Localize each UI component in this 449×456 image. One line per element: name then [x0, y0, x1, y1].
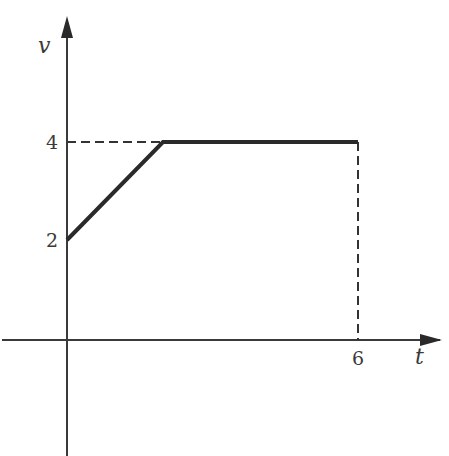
y-axis-label: v	[38, 33, 51, 58]
tick-y-2: 2	[46, 229, 58, 251]
velocity-time-chart: v t 4 2 6	[0, 0, 449, 456]
tick-x-6: 6	[352, 347, 364, 369]
tick-y-4: 4	[46, 131, 58, 153]
velocity-line	[67, 142, 358, 240]
y-axis-arrow-icon	[61, 16, 73, 38]
x-axis-label: t	[415, 344, 424, 369]
